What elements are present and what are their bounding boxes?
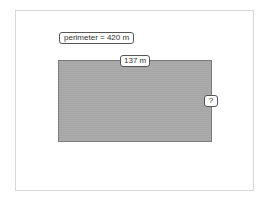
right-side-length-label: ? bbox=[204, 95, 218, 107]
perimeter-label: perimeter = 420 m bbox=[59, 32, 134, 44]
rectangle-shape bbox=[58, 60, 212, 142]
top-side-length-label: 137 m bbox=[120, 55, 150, 67]
